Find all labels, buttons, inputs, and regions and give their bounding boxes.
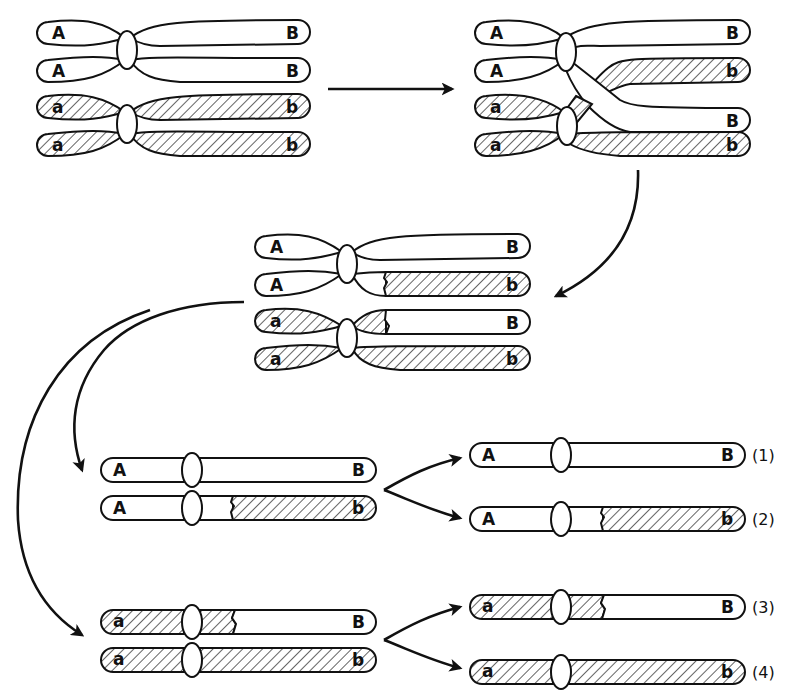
allele-label: b [726, 61, 738, 81]
centromere [337, 245, 357, 283]
chromatid-arm [130, 94, 310, 120]
gamete-2: A b (2) [470, 502, 775, 536]
centromere [182, 491, 202, 525]
allele-label: A [113, 460, 127, 480]
gamete-3: a B (3) [470, 590, 775, 624]
exchanged-segment [569, 595, 605, 619]
chromatid-arm [130, 58, 310, 83]
gamete-number: (1) [752, 446, 775, 465]
centromere [337, 319, 357, 357]
chromatid-arm [475, 57, 564, 82]
allele-label: A [490, 61, 504, 81]
allele-label: a [270, 349, 281, 369]
allele-label: a [482, 596, 493, 616]
allele-label: a [52, 97, 63, 117]
allele-label: A [482, 509, 496, 529]
chromatid-arm [569, 507, 603, 531]
allele-label: A [52, 61, 66, 81]
allele-label: A [52, 23, 66, 43]
allele-label: a [113, 611, 124, 631]
allele-label: b [506, 349, 518, 369]
allele-label: a [490, 135, 501, 155]
allele-label: a [482, 661, 493, 681]
chromatid-arm [255, 235, 342, 260]
curved-arrow-icon [74, 302, 244, 470]
crossing-over-diagram: A B A B a b a b A B A b a B a b [0, 0, 798, 699]
chromatid-arm [569, 443, 745, 467]
chromatid-arm [37, 95, 125, 120]
centromere [182, 453, 202, 487]
centromere [117, 105, 137, 143]
chromatid-arm [352, 346, 530, 370]
gamete-1: A B (1) [470, 438, 775, 472]
chromatid-arm [255, 345, 342, 370]
stage-1-tetrad: A B A B a b a b [37, 20, 310, 156]
arrow-to-gamete-4-icon [384, 640, 460, 668]
allele-label: b [286, 135, 298, 155]
centromere [556, 33, 576, 71]
allele-label: b [352, 650, 364, 670]
chromatid-arm [130, 132, 310, 157]
allele-label: B [352, 612, 365, 632]
chromatid-arm [130, 20, 310, 46]
allele-label: B [721, 445, 734, 465]
arrow-to-gamete-1-icon [384, 458, 460, 490]
chromatid-arm [37, 131, 125, 156]
gamete-number: (2) [752, 510, 775, 529]
stage-4-pair-aB-ab: a B a b [101, 605, 376, 677]
chromatid-arm [352, 272, 386, 296]
allele-label: A [482, 445, 496, 465]
allele-label: a [270, 311, 281, 331]
chromatid-arm [200, 496, 233, 520]
curved-arrow-icon [556, 170, 638, 296]
chromatid-arm [255, 271, 342, 296]
stage-2-crossover: A B A b a B a b [475, 20, 750, 156]
chromatid-arm [570, 132, 750, 156]
centromere [551, 438, 571, 472]
gamete-4: a b (4) [470, 655, 775, 689]
centromere [551, 590, 571, 624]
chromatid-arm [352, 234, 530, 260]
chromatid-arm [255, 309, 342, 334]
chromatid-arm [475, 95, 564, 120]
allele-label: B [352, 460, 365, 480]
allele-label: b [506, 275, 518, 295]
chromatid-arm [569, 660, 745, 684]
centromere [182, 643, 202, 677]
allele-label: b [721, 509, 733, 529]
allele-label: a [490, 97, 501, 117]
chromatid-arm [37, 57, 125, 82]
centromere [551, 502, 571, 536]
centromere [551, 655, 571, 689]
chromatid-arm [37, 21, 125, 46]
allele-label: A [490, 23, 504, 43]
chromatid-arm [475, 21, 564, 46]
chromatid-arm [200, 648, 376, 672]
allele-label: B [286, 23, 299, 43]
allele-label: B [506, 313, 519, 333]
allele-label: b [726, 135, 738, 155]
stage-3-recombined: A B A b a B a b [255, 234, 530, 370]
gamete-number: (4) [752, 663, 775, 682]
allele-label: B [286, 61, 299, 81]
stage-4-pair-AB-Ab: A B A b [101, 453, 376, 525]
allele-label: a [52, 135, 63, 155]
allele-label: A [270, 237, 284, 257]
allele-label: a [113, 649, 124, 669]
allele-label: B [506, 237, 519, 257]
gamete-number: (3) [752, 598, 775, 617]
allele-label: A [113, 498, 127, 518]
centromere [182, 605, 202, 639]
exchanged-segment [200, 610, 236, 634]
chromatid-arm [200, 458, 376, 482]
chromatid-arm [568, 20, 750, 50]
allele-label: B [726, 111, 739, 131]
arrow-to-gamete-3-icon [384, 607, 460, 640]
allele-label: b [286, 97, 298, 117]
centromere [557, 107, 577, 145]
allele-label: A [270, 275, 284, 295]
allele-label: b [352, 498, 364, 518]
arrow-to-gamete-2-icon [384, 490, 460, 518]
centromere [117, 31, 137, 69]
allele-label: B [721, 597, 734, 617]
